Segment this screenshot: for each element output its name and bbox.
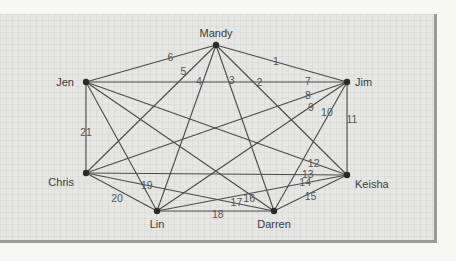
edge-label: 9	[308, 101, 314, 113]
edge-labels-layer: 123456789101112131415161718192021	[80, 51, 357, 220]
node-jen	[83, 79, 89, 85]
edge-label: 14	[299, 176, 311, 188]
node-label-mandy: Mandy	[199, 27, 233, 39]
node-keisha	[344, 172, 350, 178]
node-label-chris: Chris	[48, 176, 74, 188]
node-label-jim: Jim	[355, 76, 372, 88]
node-label-keisha: Keisha	[355, 178, 390, 190]
edge-label: 7	[305, 75, 311, 87]
node-jim	[344, 79, 350, 85]
edge-label: 16	[243, 192, 255, 204]
edge-label: 11	[347, 113, 358, 125]
edge-label: 3	[229, 74, 235, 86]
node-label-darren: Darren	[257, 218, 291, 230]
edge-label: 18	[212, 208, 224, 220]
edge-label: 17	[231, 196, 243, 208]
edge-label: 20	[111, 192, 123, 204]
edge-mandy-jim	[216, 45, 347, 82]
edge-label: 10	[321, 106, 333, 118]
node-darren	[271, 208, 277, 214]
edge-label: 8	[305, 89, 311, 101]
edge-label: 2	[256, 76, 262, 88]
edge-label: 6	[168, 51, 174, 63]
node-label-lin: Lin	[150, 218, 165, 230]
edge-mandy-chris	[86, 45, 216, 173]
edge-label: 1	[273, 55, 279, 67]
edge-mandy-darren	[216, 45, 274, 211]
node-lin	[154, 208, 160, 214]
graph-diagram: 123456789101112131415161718192021 MandyJ…	[0, 0, 456, 261]
edge-label: 5	[180, 65, 186, 77]
node-label-jen: Jen	[56, 76, 74, 88]
edge-label: 19	[141, 179, 153, 191]
node-mandy	[213, 42, 219, 48]
node-chris	[83, 170, 89, 176]
edge-label: 4	[196, 75, 202, 87]
edge-mandy-lin	[157, 45, 216, 211]
edge-label: 21	[80, 126, 92, 138]
edge-label: 15	[305, 190, 317, 202]
